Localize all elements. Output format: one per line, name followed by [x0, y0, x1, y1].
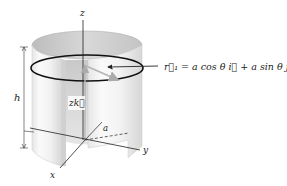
x-axis-label: x: [50, 170, 55, 180]
zk-label: zk⃗: [68, 98, 85, 108]
eq-equals: =: [181, 61, 189, 72]
eq-term2: a sin θ j⃗: [251, 61, 287, 72]
cylinder-outer-wall-left: [32, 45, 62, 166]
y-axis-label: y: [142, 145, 149, 155]
eq-plus: +: [240, 61, 248, 72]
radius-a-label: a: [103, 123, 108, 133]
eq-term1: a cos θ i⃗: [192, 61, 237, 72]
eq-lhs: r⃗₁: [164, 61, 178, 72]
position-vector-equation: r⃗₁ = a cos θ i⃗ + a sin θ j⃗: [164, 61, 287, 72]
cylinder-cut-edge: [62, 59, 66, 166]
cylinder-diagram: z zk⃗ x y a h: [0, 0, 287, 186]
height-label: h: [14, 92, 20, 103]
z-axis-label: z: [79, 8, 85, 18]
